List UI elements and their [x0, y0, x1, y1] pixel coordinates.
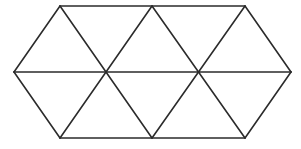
- edge-line-10: [245, 72, 291, 138]
- diagram-lines: [14, 6, 291, 138]
- triangle-lattice-diagram: [0, 0, 301, 149]
- edge-line-4: [14, 72, 60, 138]
- edge-line-9: [245, 6, 291, 72]
- edge-line-3: [14, 6, 60, 72]
